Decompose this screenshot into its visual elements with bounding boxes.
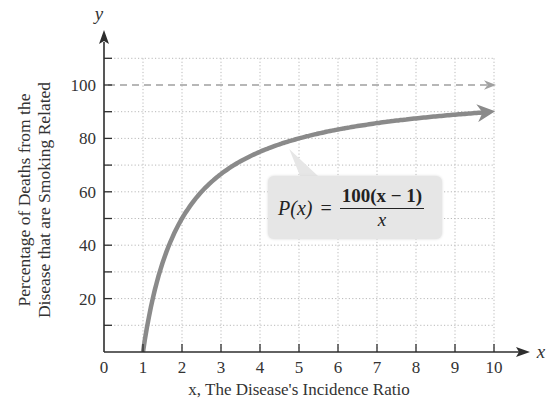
formula-callout-pointer — [289, 149, 318, 176]
x-tick-label: 1 — [139, 358, 148, 377]
formula-denominator: x — [378, 209, 386, 231]
formula-callout: P(x) = 100(x − 1) x — [278, 180, 438, 236]
formula-numerator: 100(x − 1) — [340, 185, 424, 209]
y-axis-title: Percentage of Deaths from the Disease th… — [14, 50, 54, 350]
formula-equals: = — [320, 197, 331, 220]
x-tick-label: 3 — [217, 358, 226, 377]
x-tick-label: 0 — [100, 358, 109, 377]
x-tick-label: 2 — [178, 358, 187, 377]
x-tick-label: 5 — [295, 358, 304, 377]
x-tick-label: 8 — [412, 358, 421, 377]
x-tick-label: 9 — [451, 358, 460, 377]
x-tick-label: 10 — [486, 358, 503, 377]
formula-fraction: 100(x − 1) x — [340, 185, 424, 231]
y-tick-label: 80 — [79, 129, 96, 148]
x-axis-title: x, The Disease's Incidence Ratio — [104, 380, 494, 400]
x-tick-label: 7 — [373, 358, 382, 377]
y-axis-name: y — [93, 3, 104, 24]
x-tick-label: 6 — [334, 358, 343, 377]
y-tick-label: 100 — [71, 76, 97, 95]
y-axis-title-line-2: Disease that are Smoking Related — [34, 50, 54, 350]
y-tick-label: 40 — [79, 236, 96, 255]
y-axis-arrow-icon — [99, 30, 109, 44]
x-tick-label: 4 — [256, 358, 265, 377]
y-tick-label: 60 — [79, 183, 96, 202]
y-tick-label: 20 — [79, 290, 96, 309]
y-axis-title-line-1: Percentage of Deaths from the — [14, 50, 34, 350]
formula-lhs: P(x) — [278, 197, 312, 220]
x-axis-name: x — [536, 341, 546, 362]
